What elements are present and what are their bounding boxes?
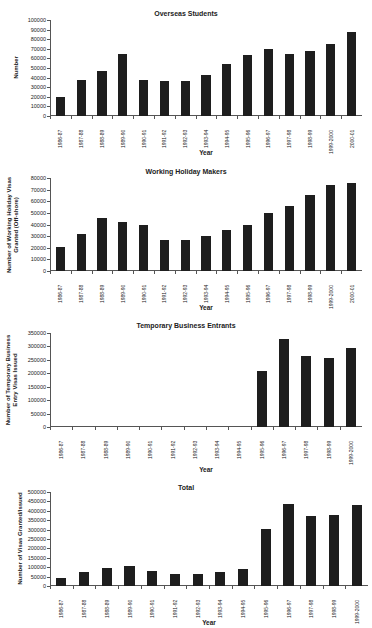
chart-title: Overseas Students [0, 10, 372, 17]
y-tick-mark [47, 360, 50, 361]
bar-1999-2000 [346, 348, 356, 427]
x-tick-mark [92, 271, 93, 274]
y-tick-label: 250000 [6, 357, 46, 363]
x-tick-mark [139, 427, 140, 430]
y-tick-label: 40000 [6, 222, 46, 228]
bar-2000-01 [347, 32, 356, 116]
x-tick-mark [258, 271, 259, 274]
x-tick-label: 1990-91 [149, 600, 155, 618]
x-tick-mark [341, 116, 342, 119]
x-tick-label: 1987-88 [78, 130, 84, 148]
y-tick-label: 30000 [6, 233, 46, 239]
x-tick-mark [164, 586, 165, 589]
x-tick-mark [117, 427, 118, 430]
x-tick-label: 1988-89 [104, 600, 110, 618]
y-tick-mark [47, 58, 50, 59]
y-tick-label: 20000 [6, 245, 46, 251]
x-tick-label: 1992-93 [192, 441, 198, 459]
x-tick-mark [118, 586, 119, 589]
y-tick-mark [47, 387, 50, 388]
y-tick-label: 50000 [6, 574, 46, 580]
x-tick-mark [320, 116, 321, 119]
x-tick-label: 1989-90 [127, 600, 133, 618]
y-tick-mark [47, 333, 50, 334]
y-tick-label: 80000 [6, 175, 46, 181]
y-axis [50, 492, 51, 586]
x-tick-mark [228, 427, 229, 430]
x-tick-mark [175, 271, 176, 274]
y-tick-mark [47, 259, 50, 260]
y-tick-label: 50000 [6, 210, 46, 216]
bar-1987-88 [79, 572, 89, 586]
x-tick-label: 1991-92 [172, 600, 178, 618]
y-tick-mark [47, 236, 50, 237]
x-tick-label: 1995-96 [245, 130, 251, 148]
bar-1987-88 [77, 234, 86, 271]
y-tick-mark [47, 511, 50, 512]
y-tick-mark [47, 548, 50, 549]
x-tick-label: 1993-94 [214, 441, 220, 459]
plot-area: 0500001000001500002000002500003000003500… [50, 333, 362, 427]
y-tick-mark [47, 225, 50, 226]
y-tick-label: 100000 [6, 564, 46, 570]
x-tick-label: 1992-93 [182, 285, 188, 303]
x-axis-label: Year [20, 304, 372, 311]
x-tick-mark [175, 116, 176, 119]
x-tick-mark [300, 271, 301, 274]
x-tick-mark [154, 116, 155, 119]
y-tick-label: 350000 [6, 517, 46, 523]
y-tick-label: 10000 [6, 103, 46, 109]
x-tick-label: 1993-94 [203, 130, 209, 148]
x-tick-mark [341, 271, 342, 274]
bar-1989-90 [118, 54, 127, 116]
x-tick-mark [71, 116, 72, 119]
chart-title: Temporary Business Entrants [0, 322, 372, 329]
x-tick-label: 1988-89 [99, 285, 105, 303]
x-tick-label: 2000-01 [349, 130, 355, 148]
bar-1995-96 [243, 225, 252, 272]
x-tick-label: 1997-98 [286, 285, 292, 303]
y-tick-label: 0 [6, 268, 46, 274]
bar-1986-87 [56, 578, 66, 586]
x-tick-mark [50, 116, 51, 119]
x-tick-mark [277, 586, 278, 589]
y-tick-label: 0 [6, 424, 46, 430]
y-tick-mark [47, 373, 50, 374]
x-tick-mark [216, 271, 217, 274]
x-tick-label: 1990-91 [141, 130, 147, 148]
bar-1998-99 [324, 358, 334, 427]
x-tick-label: 1993-94 [203, 285, 209, 303]
y-tick-mark [47, 97, 50, 98]
bar-1988-89 [97, 71, 106, 116]
y-tick-mark [47, 39, 50, 40]
x-tick-label: 1997-98 [308, 600, 314, 618]
x-tick-mark [300, 116, 301, 119]
y-tick-mark [47, 558, 50, 559]
x-tick-label: 1997-98 [286, 130, 292, 148]
x-tick-mark [273, 427, 274, 430]
x-tick-label: 1990-91 [141, 285, 147, 303]
y-tick-mark [47, 414, 50, 415]
x-tick-label: 1989-90 [120, 285, 126, 303]
y-axis [50, 20, 51, 116]
y-tick-label: 10000 [6, 256, 46, 262]
x-tick-label: 1994-95 [240, 600, 246, 618]
y-tick-label: 50000 [6, 411, 46, 417]
bar-1987-88 [77, 80, 86, 116]
x-tick-mark [206, 427, 207, 430]
x-tick-mark [279, 271, 280, 274]
y-tick-label: 70000 [6, 46, 46, 52]
chart-title: Working Holiday Makers [0, 168, 372, 175]
y-tick-mark [47, 68, 50, 69]
x-tick-mark [133, 271, 134, 274]
x-tick-mark [161, 427, 162, 430]
x-tick-mark [258, 116, 259, 119]
y-tick-label: 90000 [6, 27, 46, 33]
y-tick-label: 200000 [6, 370, 46, 376]
bar-1990-91 [139, 80, 148, 116]
y-tick-label: 300000 [6, 527, 46, 533]
x-tick-mark [95, 586, 96, 589]
chart-title: Total [0, 484, 372, 491]
bar-1994-95 [238, 569, 248, 586]
y-tick-label: 20000 [6, 94, 46, 100]
